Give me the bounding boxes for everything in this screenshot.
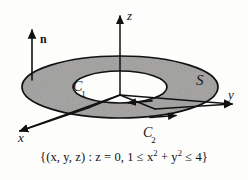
caption-tail: ≤ 4} xyxy=(182,150,208,164)
y-axis-label: y xyxy=(228,88,234,101)
caption-mid: + y xyxy=(158,150,178,164)
figure-caption: {(x, y, z) : z = 0, 1 ≤ x2 + y2 ≤ 4} xyxy=(0,150,248,165)
outer-curve-label: C2 xyxy=(143,126,157,143)
surface-label: S xyxy=(196,73,204,88)
x-axis-label: x xyxy=(18,131,24,144)
inner-curve-subscript: 1 xyxy=(81,89,86,99)
normal-vector-label: n xyxy=(40,33,47,45)
annulus-surface-figure: n z y x C1 C2 S {(x, y, z) : z = 0, 1 ≤ … xyxy=(0,0,248,180)
inner-curve-label: C1 xyxy=(73,80,87,97)
outer-curve-subscript: 2 xyxy=(151,135,156,145)
z-axis-label: z xyxy=(127,9,132,22)
caption-lead: {(x, y, z) : z = 0, 1 ≤ x xyxy=(40,150,153,164)
